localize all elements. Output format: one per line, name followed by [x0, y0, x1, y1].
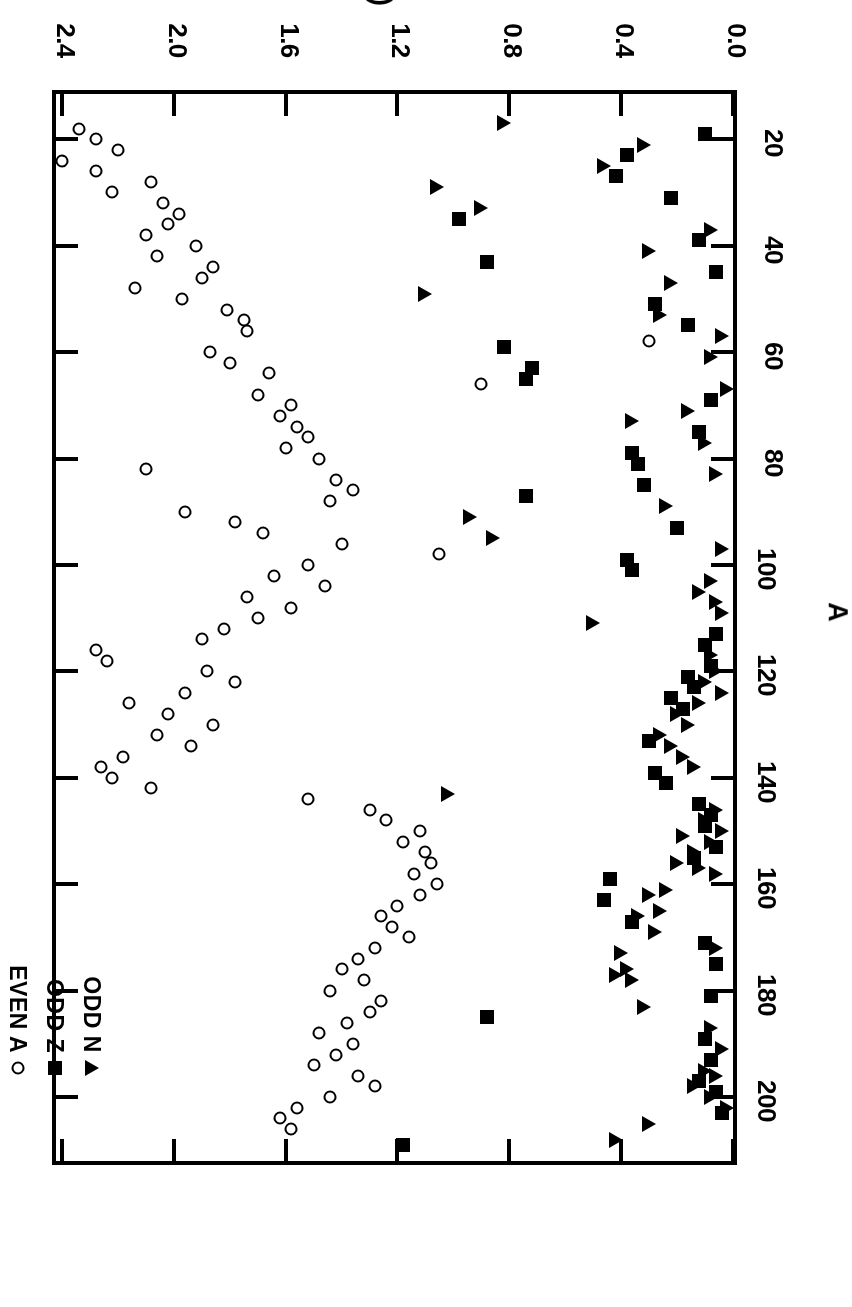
filled-triangle-marker — [681, 717, 695, 733]
filled-triangle-marker — [637, 999, 651, 1015]
filled-triangle-marker — [648, 924, 662, 940]
filled-triangle-marker — [704, 1020, 718, 1036]
series-odd-n — [56, 94, 733, 1161]
filled-triangle-marker — [720, 1100, 734, 1116]
y-axis-title: E (MeV) — [365, 0, 396, 6]
a-axis-tick-label: 120 — [751, 654, 782, 696]
a-axis-tick-label: 160 — [751, 867, 782, 909]
filled-triangle-marker — [715, 685, 729, 701]
filled-triangle-marker — [687, 844, 701, 860]
filled-triangle-marker — [614, 945, 628, 961]
filled-triangle-marker — [720, 381, 734, 397]
filled-triangle-marker — [704, 1089, 718, 1105]
filled-triangle-marker — [659, 882, 673, 898]
legend-label: EVEN A — [4, 965, 31, 1053]
a-axis-tick-label: 200 — [751, 1080, 782, 1122]
a-axis-tick-label: 80 — [758, 449, 789, 477]
legend-entry-odd-z: ODD Z — [41, 965, 68, 1076]
filled-triangle-marker — [609, 967, 623, 983]
filled-triangle-marker — [698, 674, 712, 690]
filled-triangle-marker — [709, 866, 723, 882]
filled-triangle-marker — [631, 908, 645, 924]
filled-triangle-marker — [642, 243, 656, 259]
legend: EVEN AODD ZODD N — [4, 965, 105, 1076]
filled-triangle-marker — [692, 695, 706, 711]
filled-triangle-marker — [687, 1079, 701, 1095]
filled-triangle-marker — [609, 1132, 623, 1148]
filled-triangle-marker — [441, 786, 455, 802]
legend-label: ODD N — [78, 976, 105, 1053]
filled-triangle-marker — [625, 972, 639, 988]
legend-entry-odd-n: ODD N — [78, 965, 105, 1076]
filled-triangle-marker — [625, 413, 639, 429]
e-axis-tick-label: 0.4 — [610, 23, 641, 58]
filled-triangle-marker — [709, 940, 723, 956]
x-axis-title: A — [822, 602, 852, 622]
e-axis-tick-label: 0.0 — [722, 23, 753, 58]
filled-triangle-marker — [637, 137, 651, 153]
filled-triangle-marker — [709, 1068, 723, 1084]
filled-triangle-marker — [698, 435, 712, 451]
filled-triangle-marker — [463, 509, 477, 525]
e-axis-tick-label: 2.4 — [50, 23, 81, 58]
filled-triangle-marker — [715, 541, 729, 557]
legend-label: ODD Z — [41, 979, 68, 1053]
filled-triangle-marker — [597, 158, 611, 174]
filled-triangle-marker — [642, 887, 656, 903]
filled-triangle-marker — [676, 828, 690, 844]
filled-triangle-marker — [715, 605, 729, 621]
filled-triangle-marker — [709, 467, 723, 483]
e-axis-tick-label: 1.2 — [386, 23, 417, 58]
filled-triangle-marker — [474, 200, 488, 216]
filled-triangle-marker — [653, 307, 667, 323]
filled-triangle-marker — [715, 1041, 729, 1057]
filled-triangle-marker — [586, 616, 600, 632]
filled-triangle-marker — [84, 1060, 100, 1076]
filled-triangle-marker — [704, 222, 718, 238]
filled-triangle-marker — [430, 179, 444, 195]
e-axis-tick-label: 1.6 — [274, 23, 305, 58]
plot-frame: EVEN AODD ZODD N — [52, 90, 737, 1165]
filled-triangle-marker — [681, 403, 695, 419]
filled-square-marker — [47, 1060, 63, 1076]
legend-entry-even-a: EVEN A — [4, 965, 31, 1076]
filled-triangle-marker — [692, 860, 706, 876]
a-axis-tick-label: 100 — [751, 548, 782, 590]
a-axis-tick-label: 20 — [758, 129, 789, 157]
filled-triangle-marker — [418, 286, 432, 302]
a-axis-tick-label: 60 — [758, 342, 789, 370]
a-axis-tick-label: 140 — [751, 761, 782, 803]
filled-triangle-marker — [653, 903, 667, 919]
open-circle-marker — [10, 1060, 26, 1076]
filled-triangle-marker — [704, 647, 718, 663]
filled-triangle-marker — [704, 834, 718, 850]
e-axis-tick-label: 2.0 — [162, 23, 193, 58]
filled-triangle-marker — [687, 759, 701, 775]
filled-triangle-marker — [497, 115, 511, 131]
filled-triangle-marker — [486, 530, 500, 546]
filled-triangle-marker — [692, 584, 706, 600]
filled-triangle-marker — [659, 498, 673, 514]
filled-triangle-marker — [704, 349, 718, 365]
filled-triangle-marker — [698, 812, 712, 828]
filled-triangle-marker — [642, 1116, 656, 1132]
filled-triangle-marker — [715, 328, 729, 344]
filled-triangle-marker — [665, 275, 679, 291]
e-axis-tick-label: 0.8 — [498, 23, 529, 58]
filled-triangle-marker — [670, 855, 684, 871]
a-axis-tick-label: 40 — [758, 236, 789, 264]
a-axis-tick-label: 180 — [751, 974, 782, 1016]
